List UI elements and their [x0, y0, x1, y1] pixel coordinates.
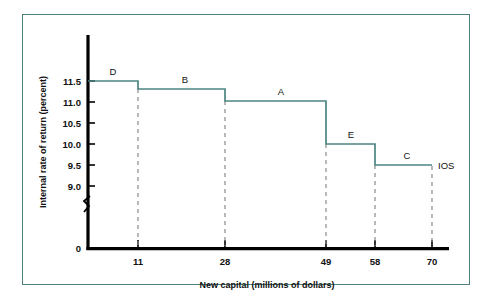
- x-axis-ticks: [138, 240, 432, 247]
- ios-curve-label: IOS: [438, 160, 454, 171]
- x-axis-title: New capital (millions of dollars): [199, 280, 334, 290]
- y-tick-label-10-0: 10.0: [63, 139, 82, 150]
- ios-step-line: [88, 81, 432, 165]
- y-axis-zero-label: 0: [76, 243, 81, 254]
- step-label-c: C: [404, 150, 411, 161]
- y-axis-title: Internal rate of return (percent): [38, 76, 48, 208]
- figure-container: 11.5 11.0 10.5 10.0 9.5 9.0 0 11 28 49 5…: [0, 0, 497, 306]
- x-tick-label-49: 49: [321, 256, 332, 267]
- y-tick-label-9-0: 9.0: [68, 181, 81, 192]
- y-tick-label-11-0: 11.0: [63, 97, 81, 108]
- step-label-b: B: [182, 74, 188, 85]
- x-tick-label-58: 58: [370, 256, 381, 267]
- x-tick-label-28: 28: [220, 256, 231, 267]
- step-label-e: E: [348, 129, 354, 140]
- step-label-a: A: [278, 86, 285, 97]
- step-boundary-dashed-lines: [138, 89, 432, 246]
- y-tick-label-11-5: 11.5: [63, 76, 82, 87]
- x-tick-label-70: 70: [427, 256, 438, 267]
- y-tick-label-10-5: 10.5: [63, 118, 82, 129]
- x-tick-label-11: 11: [133, 256, 144, 267]
- y-tick-label-9-5: 9.5: [68, 160, 82, 171]
- investment-opportunity-schedule-chart: 11.5 11.0 10.5 10.0 9.5 9.0 0 11 28 49 5…: [0, 0, 497, 306]
- step-label-d: D: [110, 66, 117, 77]
